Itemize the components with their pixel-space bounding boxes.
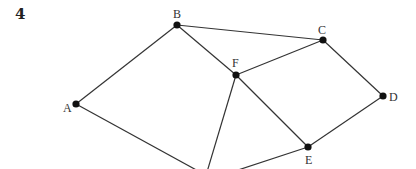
- edge-e-offscreen: [232, 147, 308, 169]
- node-label: D: [389, 90, 398, 104]
- node-b: B: [173, 7, 181, 29]
- node-f: F: [232, 56, 240, 79]
- node-label: F: [232, 56, 239, 70]
- node-e: E: [304, 143, 312, 167]
- node-label: E: [305, 153, 312, 167]
- edge-a-b: [76, 25, 177, 104]
- node-dot-icon: [379, 92, 386, 99]
- node-dot-icon: [72, 100, 79, 107]
- graph-figure: 4 ABCDEF: [0, 0, 416, 169]
- edge-b-f: [177, 25, 236, 75]
- node-dot-icon: [173, 21, 180, 28]
- node-dot-icon: [319, 36, 326, 43]
- edge-c-d: [323, 40, 383, 96]
- node-a: A: [63, 100, 80, 115]
- graph-edges: [76, 25, 383, 169]
- node-label: C: [318, 23, 326, 37]
- node-d: D: [379, 90, 398, 104]
- node-label: B: [173, 7, 181, 21]
- edge-d-e: [308, 96, 383, 147]
- edge-a-offscreen: [76, 104, 200, 169]
- edge-b-c: [177, 25, 323, 40]
- edge-f-c: [236, 40, 323, 75]
- node-label: A: [63, 101, 72, 115]
- node-dot-icon: [232, 71, 239, 78]
- node-dot-icon: [304, 143, 311, 150]
- node-c: C: [318, 23, 327, 44]
- edge-f-e: [236, 75, 308, 147]
- edge-f-offscreen: [207, 75, 236, 169]
- network-graph: ABCDEF: [0, 0, 416, 169]
